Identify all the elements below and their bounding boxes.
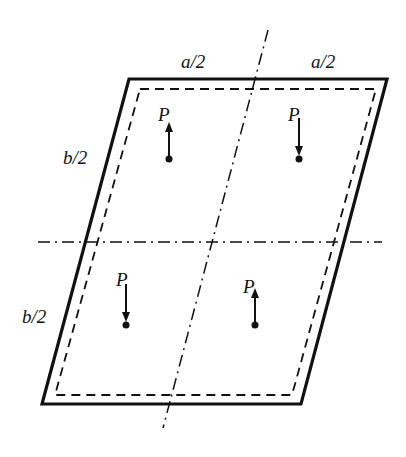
dimension-label-b-half-lower: b/2 — [22, 307, 46, 326]
load-arrow-down-icon — [122, 284, 130, 329]
load-label-p: P — [116, 270, 128, 289]
load-label-p: P — [243, 277, 255, 296]
dimension-label-a-half-left: a/2 — [181, 52, 205, 71]
load-label-p: P — [288, 105, 300, 124]
load-label-p: P — [158, 105, 170, 124]
load-arrow-up-icon — [165, 122, 173, 163]
dimension-label-b-half-upper: b/2 — [63, 148, 87, 167]
skew-plate-diagram: a/2 a/2 b/2 b/2 P P P P — [0, 0, 406, 457]
dimension-label-a-half-right: a/2 — [311, 52, 335, 71]
